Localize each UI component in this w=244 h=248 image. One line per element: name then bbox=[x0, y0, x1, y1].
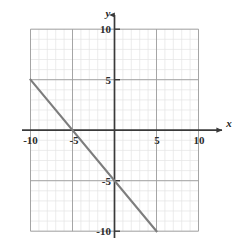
y-tick-label-5: 5 bbox=[106, 74, 112, 86]
graph-canvas: -10 -5 5 10 10 5 -5 -10 x y bbox=[0, 0, 244, 248]
x-tick-label-10: 10 bbox=[194, 134, 206, 146]
y-tick-label-minus-5: -5 bbox=[102, 175, 112, 187]
x-tick-label-5: 5 bbox=[154, 134, 160, 146]
y-tick-label-minus-10: -10 bbox=[96, 225, 111, 237]
x-axis-label: x bbox=[225, 117, 232, 129]
y-axis-label: y bbox=[104, 7, 111, 19]
x-tick-label-minus-5: -5 bbox=[69, 134, 79, 146]
x-tick-label-minus-10: -10 bbox=[23, 134, 38, 146]
coordinate-graph: -10 -5 5 10 10 5 -5 -10 x y bbox=[0, 0, 244, 248]
y-tick-label-10: 10 bbox=[100, 23, 112, 35]
plotted-line-series bbox=[31, 80, 157, 232]
